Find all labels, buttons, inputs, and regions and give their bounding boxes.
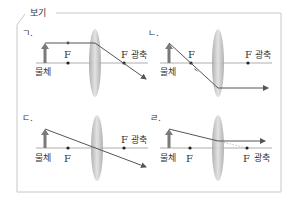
panel-c: ㄷ. F F 광축 물체: [22, 113, 148, 181]
panel-label: ㄱ.: [22, 28, 33, 38]
object-arrow: [44, 47, 47, 63]
focus-right-label: F: [121, 134, 128, 145]
convex-lens: [91, 115, 103, 181]
focus-right-label: F: [121, 49, 128, 60]
panel-label: ㄷ.: [22, 113, 33, 123]
axis-label: 광축: [131, 134, 147, 145]
panel-b: ㄴ. F F 광축 물체: [148, 28, 272, 97]
focus-left-label: F: [186, 153, 193, 164]
panel-label: ㄴ.: [148, 28, 159, 38]
example-box-frame: [17, 13, 281, 192]
object-arrow: [44, 133, 47, 148]
convex-lens: [89, 29, 101, 97]
object-arrow: [168, 133, 171, 148]
panel-label: ㄹ.: [150, 113, 161, 123]
object-label: 물체: [160, 67, 176, 77]
axis-label: 광축: [131, 49, 147, 60]
convex-lens: [212, 115, 224, 181]
object-label: 물체: [35, 153, 51, 163]
object-label: 물체: [35, 67, 51, 77]
object-arrow: [168, 47, 171, 63]
axis-label: 광축: [254, 152, 270, 163]
focus-left-label: F: [64, 49, 71, 60]
convex-lens: [212, 29, 224, 97]
axis-label: 광축: [255, 49, 271, 60]
panel-a: ㄱ. F F 광축 물체: [22, 28, 148, 97]
focus-left-label: F: [64, 153, 71, 164]
focus-right-label: F: [245, 49, 252, 60]
lens-diagram: 보기 ㄱ. F F 광축 물체 ㄴ. F F 광축 물체 ㄷ.: [0, 0, 293, 205]
object-label: 물체: [160, 153, 176, 163]
focus-left-label: F: [188, 49, 195, 60]
box-title: 보기: [30, 8, 46, 18]
focus-right-label: F: [243, 153, 250, 164]
panel-d: ㄹ. F F 광축 물체: [150, 113, 272, 181]
